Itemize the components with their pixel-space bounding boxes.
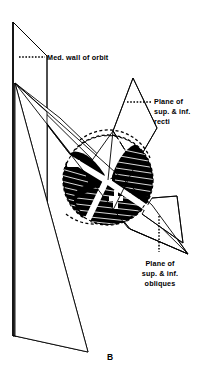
label-obliques-line-3: obliques: [145, 279, 176, 288]
label-med-wall-of-orbit: Med. wall of orbit: [47, 53, 109, 62]
orbital-planes-diagram: Med. wall of orbit Plane of sup. & inf. …: [0, 0, 202, 374]
label-recti-line-1: Plane of: [154, 97, 184, 106]
label-recti-line-2: sup. & inf.: [154, 107, 190, 116]
label-obliques-line-1: Plane of: [145, 259, 175, 268]
label-recti-line-3: recti: [154, 117, 170, 126]
label-obliques-line-2: sup. & inf.: [142, 269, 178, 278]
panel-letter: B: [107, 352, 113, 362]
anatomical-figure: Med. wall of orbit Plane of sup. & inf. …: [0, 0, 202, 374]
